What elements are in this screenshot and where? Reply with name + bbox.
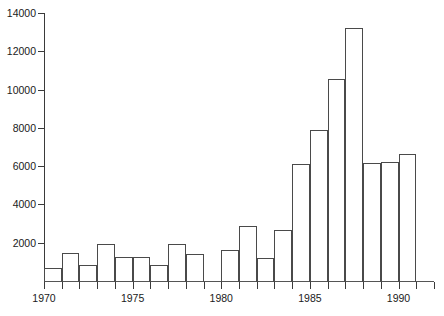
x-tick-1973	[97, 282, 98, 289]
x-tick-1977	[168, 282, 169, 289]
x-tick-1972	[79, 282, 80, 289]
y-tick-label: 8000	[0, 122, 36, 134]
x-tick-label-1985: 1985	[298, 292, 321, 304]
x-tick-1984	[292, 282, 293, 289]
x-tick-1987	[345, 282, 346, 289]
x-tick-1992	[434, 282, 435, 289]
x-tick-1989	[381, 282, 382, 289]
x-tick-label-1975: 1975	[121, 292, 144, 304]
x-tick-label-1990: 1990	[387, 292, 410, 304]
bar	[168, 244, 186, 282]
x-tick-1981	[239, 282, 240, 289]
bar	[310, 130, 328, 282]
bar	[221, 250, 239, 282]
bar	[292, 164, 310, 282]
y-tick-label: 14000	[0, 7, 36, 19]
x-tick-1978	[186, 282, 187, 289]
bar	[186, 254, 204, 282]
x-tick-1974	[115, 282, 116, 289]
x-tick-1976	[150, 282, 151, 289]
bar	[79, 265, 97, 282]
x-tick-1979	[204, 282, 205, 289]
bar	[328, 79, 346, 282]
x-tick-1980	[221, 282, 222, 289]
bar	[345, 28, 363, 282]
y-tick-label: 2000	[0, 237, 36, 249]
y-tick-label: 4000	[0, 198, 36, 210]
x-tick-1982	[257, 282, 258, 289]
y-tick-label: 10000	[0, 84, 36, 96]
y-tick-8000	[38, 128, 45, 129]
bar	[274, 230, 292, 282]
bar	[97, 244, 115, 282]
y-tick-12000	[38, 51, 45, 52]
bar-chart: 2000400060008000100001200014000 19701975…	[0, 0, 444, 316]
bar	[399, 154, 417, 282]
bar	[115, 257, 133, 282]
bar	[257, 258, 275, 282]
x-tick-1983	[274, 282, 275, 289]
x-tick-1975	[133, 282, 134, 289]
x-tick-label-1980: 1980	[210, 292, 233, 304]
x-tick-1991	[416, 282, 417, 289]
x-tick-1971	[62, 282, 63, 289]
bar	[239, 226, 257, 282]
bar	[363, 163, 381, 282]
y-tick-14000	[38, 13, 45, 14]
y-axis-line	[44, 13, 45, 282]
y-tick-2000	[38, 243, 45, 244]
x-tick-1985	[310, 282, 311, 289]
bar	[381, 162, 399, 282]
bar	[62, 253, 80, 282]
y-tick-10000	[38, 90, 45, 91]
x-tick-1986	[328, 282, 329, 289]
y-tick-4000	[38, 204, 45, 205]
x-tick-1970	[44, 282, 45, 289]
bar	[150, 265, 168, 282]
y-tick-6000	[38, 166, 45, 167]
bar	[133, 257, 151, 282]
y-tick-label: 12000	[0, 45, 36, 57]
bar	[44, 268, 62, 282]
x-tick-1988	[363, 282, 364, 289]
x-tick-1990	[399, 282, 400, 289]
y-tick-label: 6000	[0, 160, 36, 172]
x-tick-label-1970: 1970	[32, 292, 55, 304]
